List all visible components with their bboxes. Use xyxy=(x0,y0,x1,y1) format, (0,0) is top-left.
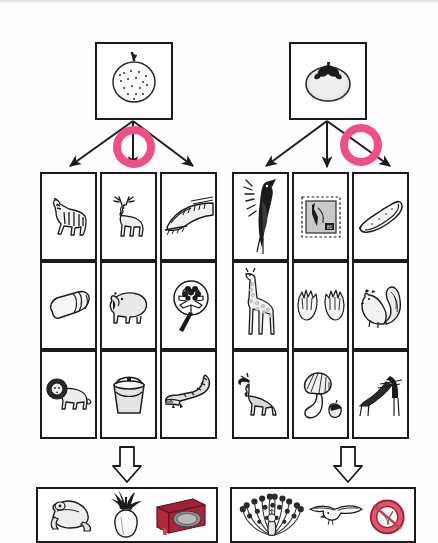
zebra-icon xyxy=(44,193,94,241)
giraffe-icon xyxy=(239,268,283,344)
lion-icon xyxy=(44,375,94,415)
left-cell-hippo[interactable] xyxy=(100,261,157,350)
right-cell-moose[interactable] xyxy=(232,350,289,439)
apple-icon xyxy=(103,51,165,111)
frog-icon xyxy=(45,495,101,535)
left-cell-crocodile[interactable] xyxy=(160,350,217,439)
flower-fan-icon xyxy=(165,278,213,334)
right-flow-arrow xyxy=(334,447,362,482)
right-cell-cucumber[interactable] xyxy=(352,172,409,261)
right-cell-postage-stamp[interactable]: 80 xyxy=(292,172,349,261)
right-group-header-box[interactable]: persimmon xyxy=(289,42,367,120)
peacock-icon xyxy=(238,488,306,542)
worksheet-page: apple persimmon xyxy=(0,0,438,543)
gloves-icon xyxy=(295,289,347,323)
deer-icon xyxy=(104,192,154,242)
right-cell-shellfish-acorn[interactable] xyxy=(292,350,349,439)
right-cell-squirrel[interactable] xyxy=(352,261,409,350)
turnip-icon xyxy=(104,489,148,541)
crocodile-icon xyxy=(163,371,215,419)
moose-icon xyxy=(235,373,287,417)
left-cell-zebra[interactable] xyxy=(40,172,97,261)
right-result-box[interactable] xyxy=(230,487,416,543)
left-cell-eraser[interactable] xyxy=(40,261,97,350)
hippo-icon xyxy=(104,285,154,327)
left-cell-flower-fan[interactable] xyxy=(160,261,217,350)
woodpecker-icon xyxy=(236,178,286,256)
right-cell-gloves[interactable] xyxy=(292,261,349,350)
squirrel-icon xyxy=(356,282,406,330)
bullet-train-icon xyxy=(163,195,215,239)
slide-icon xyxy=(356,372,406,418)
left-group-header-box[interactable]: apple xyxy=(95,42,173,120)
svg-text:80: 80 xyxy=(326,224,332,230)
right-cell-giraffe[interactable] xyxy=(232,261,289,350)
seagull-icon xyxy=(306,499,366,531)
cucumber-icon xyxy=(356,196,406,238)
right-cell-woodpecker[interactable] xyxy=(232,172,289,261)
shellfish-acorn-icon xyxy=(295,369,347,421)
left-cell-bucket[interactable] xyxy=(100,350,157,439)
red-round-icon xyxy=(366,493,409,537)
persimmon-icon xyxy=(297,53,359,109)
bucket-icon xyxy=(106,372,152,418)
red-box-icon xyxy=(151,493,209,537)
right-annotation-circle xyxy=(340,124,382,166)
right-cell-slide[interactable] xyxy=(352,350,409,439)
eraser-icon xyxy=(45,289,93,323)
left-cell-deer[interactable] xyxy=(100,172,157,261)
left-annotation-circle xyxy=(113,126,155,168)
left-result-box[interactable] xyxy=(36,487,218,543)
scan-edge xyxy=(0,0,438,3)
left-cell-lion[interactable] xyxy=(40,350,97,439)
left-cell-bullet-train[interactable] xyxy=(160,172,217,261)
postage-stamp-icon: 80 xyxy=(298,192,344,242)
left-flow-arrow xyxy=(113,447,141,482)
